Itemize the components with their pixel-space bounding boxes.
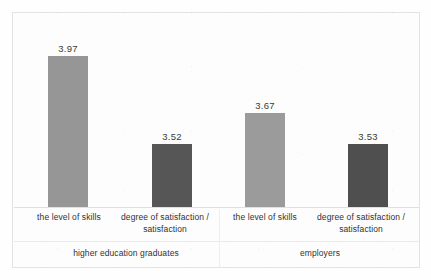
category-label: degree of satisfaction / satisfaction xyxy=(305,212,417,235)
group-label-employers: employers xyxy=(225,248,415,258)
bar-group-graduates-skills: 3.97 xyxy=(48,13,88,208)
group-label-graduates: higher education graduates xyxy=(31,248,221,258)
bar-chart: 3.97 3.52 3.67 3.53 the level of skills … xyxy=(0,0,431,280)
plot-area: 3.97 3.52 3.67 3.53 xyxy=(13,13,419,208)
bar-value-label: 3.97 xyxy=(32,43,104,54)
bar-value-label: 3.52 xyxy=(136,131,208,142)
category-label: degree of satisfaction / satisfaction xyxy=(109,212,221,235)
bar-rect xyxy=(245,113,285,208)
bar-rect xyxy=(152,144,192,208)
category-label-row: the level of skills degree of satisfacti… xyxy=(13,210,419,242)
bar-value-label: 3.53 xyxy=(332,131,404,142)
bar-group-employers-satisfaction: 3.53 xyxy=(348,13,388,208)
bar-group-graduates-satisfaction: 3.52 xyxy=(152,13,192,208)
bar-rect xyxy=(348,144,388,208)
category-divider xyxy=(14,241,419,242)
group-label-row: higher education graduates employers xyxy=(13,244,419,266)
bar-group-employers-skills: 3.67 xyxy=(245,13,285,208)
bar-value-label: 3.67 xyxy=(229,100,301,111)
bar-rect xyxy=(48,56,88,208)
category-axis-line xyxy=(14,207,419,208)
